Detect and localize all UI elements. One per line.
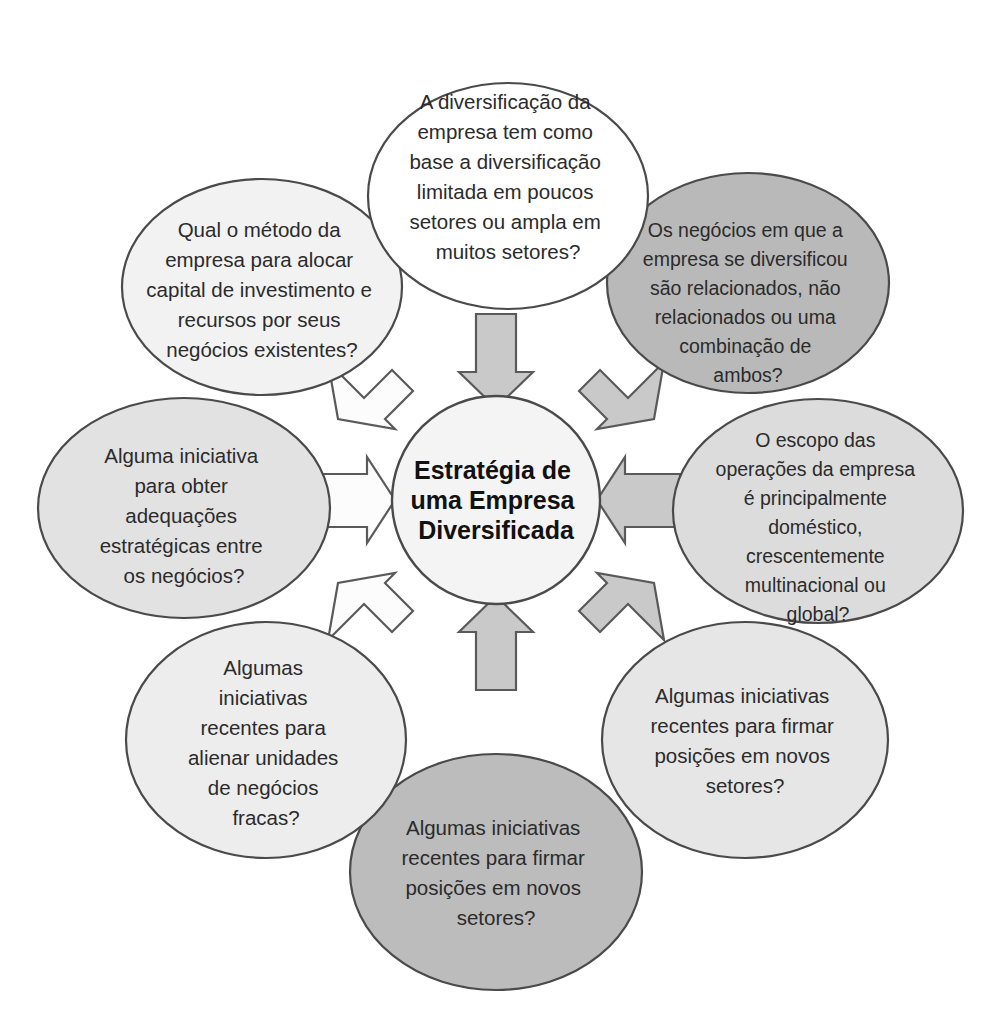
arrow-top-right-shape [579, 362, 664, 429]
arrow-bottom-shape [459, 596, 533, 690]
node-top-right[interactable]: Os negócios em que a empresa se diversif… [607, 173, 889, 393]
center-hub[interactable]: Estratégia de uma Empresa Diversificada [392, 396, 600, 604]
node-right[interactable]: O escopo das operações da empresa é prin… [673, 399, 963, 625]
arrow-top-shape [459, 314, 533, 408]
arrow-top [459, 314, 533, 408]
arrow-bottom-left [328, 573, 413, 640]
center-hub-label: Estratégia de uma Empresa Diversificada [411, 456, 582, 544]
arrow-bottom-right-shape [579, 573, 664, 640]
node-top-left-label: Qual o método da empresa para alocar cap… [146, 218, 377, 361]
diagram-canvas: Algumas iniciativas recentes para firmar… [0, 0, 991, 1019]
node-bottom-right-ellipse [602, 622, 888, 858]
arrow-top-right [579, 362, 664, 429]
node-bottom-left[interactable]: Algumas iniciativas recentes para aliena… [126, 622, 406, 858]
arrow-bottom-left-shape [328, 573, 413, 640]
node-bottom-right[interactable]: Algumas iniciativas recentes para firmar… [602, 622, 888, 858]
arrow-bottom-right [579, 573, 664, 640]
node-top-left[interactable]: Qual o método da empresa para alocar cap… [122, 179, 402, 395]
arrow-right-shape [597, 457, 680, 543]
diversification-strategy-diagram: Algumas iniciativas recentes para firmar… [0, 0, 991, 1019]
node-top[interactable]: A diversificação da empresa tem como bas… [368, 83, 648, 309]
arrow-right [597, 457, 680, 543]
arrow-bottom [459, 596, 533, 690]
node-left[interactable]: Alguma iniciativa para obter adequações … [38, 398, 330, 618]
